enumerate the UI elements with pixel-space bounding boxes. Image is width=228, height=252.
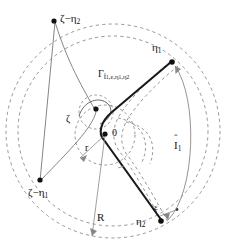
label-eta1: η1 <box>152 42 162 54</box>
point-eta2 <box>158 218 164 224</box>
zeta-chord-bend <box>40 22 96 181</box>
label-radius-r-text: r <box>85 142 88 153</box>
label-origin-text: 0 <box>112 127 117 138</box>
diagram-canvas <box>0 0 228 252</box>
contour-dashed-outline-2 <box>122 66 178 222</box>
label-epsilon: ε <box>154 203 158 212</box>
hat-accent-icon: ˆ <box>174 135 177 144</box>
label-I-hat-1: ˆI1 <box>174 140 181 152</box>
radius-R-arrowhead <box>90 228 97 236</box>
label-gamma-sub-eta-b-idx: 2 <box>127 74 130 80</box>
point-eta1 <box>169 59 175 65</box>
label-zeta-minus-eta1: ζ−η1 <box>28 187 48 199</box>
label-gamma-sub-eta-a-idx: 1 <box>119 74 122 80</box>
label-zeta-minus-eta2-sub: 2 <box>77 17 81 26</box>
label-eta2-sub: 2 <box>142 220 146 229</box>
label-zeta-minus-eta2: ζ−η2 <box>60 13 80 25</box>
label-epsilon-text: ε <box>154 202 158 212</box>
main-contour-path <box>101 62 171 221</box>
label-zeta-minus-eta1-sub: 1 <box>45 191 49 200</box>
point-zeta-minus-eta2 <box>51 18 56 23</box>
label-gamma-contour: ΓÎ11,ε,η,ε,η1,η2 <box>98 69 129 80</box>
label-eta1-sub: 1 <box>158 46 162 55</box>
label-zeta: ζ <box>66 114 70 124</box>
label-radius-R-text: R <box>97 211 104 223</box>
label-gamma-subscript: Î11,ε,η,ε,η1,η2 <box>104 73 130 80</box>
label-gamma-sub-one: 1 <box>106 74 109 80</box>
label-I-hat-sub: 1 <box>178 144 182 153</box>
label-radius-r: r <box>85 143 88 153</box>
label-zeta-minus-eta2-text: ζ−η <box>60 12 77 24</box>
radius-r-line <box>80 135 105 158</box>
point-origin <box>102 131 107 136</box>
label-zeta-minus-eta1-text: ζ−η <box>28 186 45 198</box>
point-zeta-minus-eta1 <box>37 177 42 182</box>
label-eta2: η2 <box>136 216 146 228</box>
contour-diagram-figure: ζ−η2 ζ−η1 η1 η2 ζ 0 r R ε ΓÎ11,ε,η,ε,η1,… <box>0 0 228 252</box>
label-radius-R: R <box>97 212 104 223</box>
label-origin: 0 <box>112 128 117 138</box>
I-hat-arc-arrowhead-top <box>175 66 181 74</box>
zeta-hook-curve <box>79 100 111 124</box>
keyhole-dashed-arc-lower <box>126 122 153 164</box>
point-zeta <box>93 106 98 111</box>
label-zeta-text: ζ <box>66 113 70 124</box>
zeta-chord-line <box>40 22 55 181</box>
label-I-hat-glyph-wrap: ˆI <box>174 140 178 151</box>
